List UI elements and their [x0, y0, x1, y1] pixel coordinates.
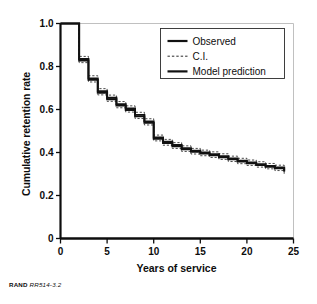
figure-container: 00.20.40.60.81.00510152025ObservedC.I.Mo… [0, 0, 317, 304]
y-tick-label: 0.4 [40, 147, 54, 158]
x-axis-title: Years of service [60, 262, 293, 274]
y-tick-label: 0 [48, 233, 54, 244]
y-tick-label: 0.2 [40, 190, 54, 201]
y-axis-title: Cumulative retention rate [20, 44, 32, 224]
legend-label: Observed [193, 36, 236, 47]
y-tick-label: 0.8 [40, 61, 54, 72]
x-tick-label: 25 [288, 246, 300, 257]
legend-label: Model prediction [193, 66, 266, 77]
credit-id: RR514-3.2 [30, 281, 62, 288]
figure-credit: RAND RR514-3.2 [9, 281, 61, 288]
x-tick-label: 0 [58, 246, 64, 257]
credit-org: RAND [9, 281, 28, 288]
x-tick-label: 5 [104, 246, 110, 257]
x-tick-label: 10 [148, 246, 160, 257]
y-tick-label: 0.6 [40, 104, 54, 115]
x-tick-label: 20 [241, 246, 253, 257]
x-tick-label: 15 [195, 246, 207, 257]
chart-canvas: 00.20.40.60.81.00510152025ObservedC.I.Mo… [0, 0, 317, 304]
legend-label: C.I. [193, 51, 209, 62]
y-tick-label: 1.0 [40, 18, 54, 29]
